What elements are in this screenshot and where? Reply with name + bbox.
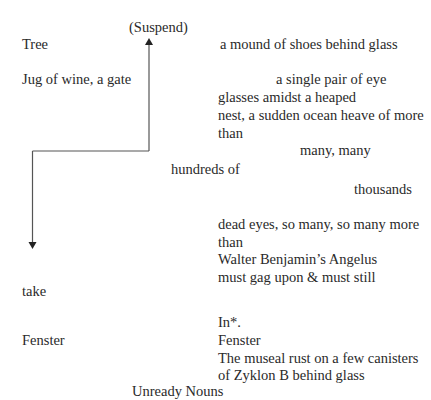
right-line: thousands	[354, 180, 412, 198]
arrow-up-icon	[145, 38, 153, 45]
right-line: than	[218, 124, 243, 142]
right-line: dead eyes, so many, so many more	[218, 215, 419, 233]
poem-title: Unready Nouns	[132, 382, 223, 400]
right-line: must gag upon & must still	[218, 268, 376, 286]
suspend-label: (Suspend)	[129, 18, 188, 36]
right-line: In*.	[218, 313, 241, 331]
right-line: Fenster	[218, 331, 261, 349]
left-line-jug: Jug of wine, a gate	[22, 70, 131, 88]
right-line: a mound of shoes behind glass	[220, 35, 398, 53]
right-line: nest, a sudden ocean heave of more	[218, 106, 424, 124]
right-line: many, many	[300, 141, 371, 159]
left-line-fenster: Fenster	[22, 331, 65, 349]
left-line-take: take	[22, 282, 46, 300]
right-line: of Zyklon B behind glass	[218, 366, 365, 384]
right-line: The museal rust on a few canisters	[218, 349, 419, 367]
right-line: than	[218, 233, 243, 251]
right-line: a single pair of eye	[276, 70, 386, 88]
left-line-tree: Tree	[22, 35, 48, 53]
arrow-down-icon	[29, 242, 37, 249]
right-line: Walter Benjamin’s Angelus	[218, 250, 377, 268]
right-line: hundreds of	[171, 160, 240, 178]
right-line: glasses amidst a heaped	[218, 88, 356, 106]
